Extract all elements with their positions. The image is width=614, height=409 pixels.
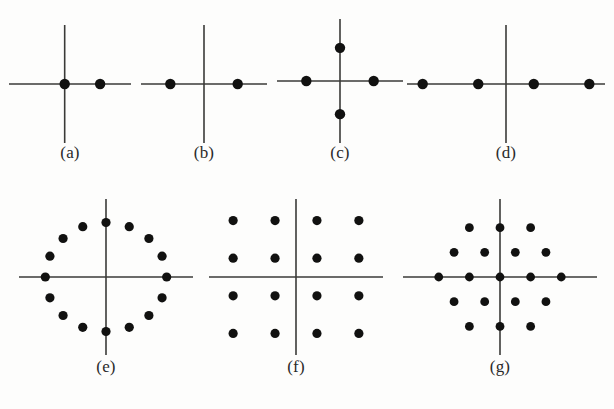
- constellation-point: [312, 329, 321, 338]
- constellation-point: [354, 254, 363, 263]
- constellation-point: [229, 329, 238, 338]
- constellation-panel-c: [276, 18, 404, 144]
- constellation-point: [101, 327, 110, 336]
- constellation-plot-c: [276, 18, 404, 144]
- constellation-point: [157, 293, 166, 302]
- constellation-point: [45, 293, 54, 302]
- constellation-point: [58, 234, 67, 243]
- constellation-point: [417, 79, 427, 89]
- constellation-point: [229, 216, 238, 225]
- constellation-point: [450, 297, 459, 306]
- constellation-panel-b: [140, 24, 268, 144]
- constellation-panel-a: [8, 24, 132, 144]
- constellation-point: [542, 248, 551, 257]
- constellation-panel-e: [18, 198, 194, 356]
- constellation-point: [165, 79, 175, 89]
- constellation-point: [78, 323, 87, 332]
- constellation-point: [496, 322, 505, 331]
- constellation-point: [465, 273, 474, 282]
- constellation-point: [557, 273, 566, 282]
- constellation-point: [58, 311, 67, 320]
- panel-label-d: (d): [406, 143, 606, 163]
- constellation-point: [354, 216, 363, 225]
- constellation-plot-d: [406, 24, 606, 144]
- constellation-point: [270, 254, 279, 263]
- constellation-point: [473, 79, 483, 89]
- constellation-point: [312, 254, 321, 263]
- constellation-point: [529, 79, 539, 89]
- constellation-panel-d: [406, 24, 606, 144]
- constellation-point: [496, 223, 505, 232]
- constellation-point: [101, 218, 110, 227]
- constellation-point: [45, 252, 54, 261]
- panel-label-e: (e): [18, 357, 194, 377]
- constellation-point: [450, 248, 459, 257]
- constellation-plot-g: [402, 198, 598, 356]
- constellation-point: [465, 223, 474, 232]
- panel-label-f: (f): [208, 357, 384, 377]
- constellation-point: [354, 291, 363, 300]
- constellation-point: [335, 109, 345, 119]
- constellation-point: [542, 297, 551, 306]
- constellation-point: [526, 322, 535, 331]
- constellation-point: [312, 291, 321, 300]
- constellation-point: [270, 291, 279, 300]
- constellation-point: [95, 79, 105, 89]
- figure-canvas: (a) (b) (c) (d) (e) (f) (g): [0, 0, 614, 409]
- constellation-point: [584, 79, 594, 89]
- constellation-point: [270, 329, 279, 338]
- constellation-plot-e: [18, 198, 194, 356]
- constellation-panel-g: [402, 198, 598, 356]
- constellation-point: [78, 222, 87, 231]
- panel-label-b: (b): [140, 143, 268, 163]
- panel-label-a: (a): [8, 143, 132, 163]
- constellation-point: [354, 329, 363, 338]
- constellation-point: [312, 216, 321, 225]
- constellation-point: [335, 43, 345, 53]
- constellation-point: [229, 254, 238, 263]
- constellation-point: [270, 216, 279, 225]
- constellation-point: [229, 291, 238, 300]
- constellation-point: [162, 272, 171, 281]
- constellation-point: [125, 222, 134, 231]
- constellation-point: [526, 273, 535, 282]
- constellation-plot-a: [8, 24, 132, 144]
- constellation-plot-f: [208, 198, 384, 356]
- constellation-point: [511, 248, 520, 257]
- constellation-point: [368, 76, 378, 86]
- constellation-point: [144, 311, 153, 320]
- constellation-plot-b: [140, 24, 268, 144]
- constellation-point: [526, 223, 535, 232]
- constellation-point: [125, 323, 134, 332]
- constellation-point: [496, 273, 505, 282]
- constellation-point: [465, 322, 474, 331]
- panel-label-g: (g): [402, 357, 598, 377]
- constellation-point: [301, 76, 311, 86]
- constellation-point: [232, 79, 242, 89]
- constellation-point: [480, 248, 489, 257]
- constellation-point: [157, 252, 166, 261]
- constellation-point: [480, 297, 489, 306]
- panel-label-c: (c): [276, 143, 404, 163]
- constellation-point: [41, 272, 50, 281]
- constellation-point: [59, 79, 69, 89]
- constellation-point: [434, 273, 443, 282]
- constellation-panel-f: [208, 198, 384, 356]
- constellation-point: [511, 297, 520, 306]
- constellation-point: [144, 234, 153, 243]
